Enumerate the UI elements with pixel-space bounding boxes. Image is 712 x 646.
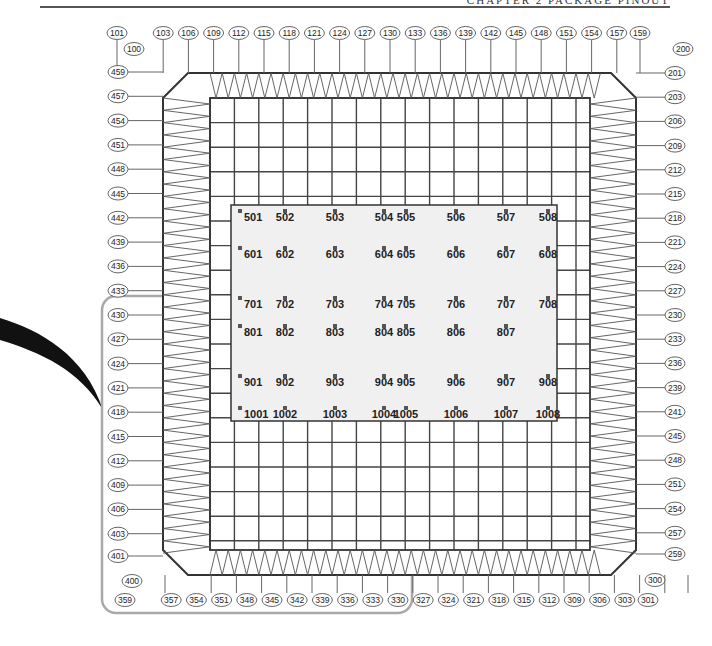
pad-1007: 1007 bbox=[494, 408, 518, 420]
top-pin-151: 151 bbox=[559, 28, 573, 38]
top-pin-121: 121 bbox=[307, 28, 321, 38]
top-pin-124: 124 bbox=[333, 28, 347, 38]
bottom-pin-357: 357 bbox=[164, 595, 178, 605]
right-pin-224: 224 bbox=[668, 262, 682, 272]
left-pin-406: 406 bbox=[111, 504, 125, 514]
pad-707: 707 bbox=[497, 298, 515, 310]
pinout-diagram: 1011031061091121151181211241271301331361… bbox=[0, 0, 712, 646]
left-pin-451: 451 bbox=[111, 140, 125, 150]
pad-905: 905 bbox=[397, 376, 415, 388]
left-pin-433: 433 bbox=[111, 286, 125, 296]
bottom-pin-342: 342 bbox=[290, 595, 304, 605]
top-pin-103: 103 bbox=[156, 28, 170, 38]
pad-801-marker bbox=[238, 324, 242, 328]
pad-504: 504 bbox=[375, 211, 394, 223]
bottom-pin-324: 324 bbox=[441, 595, 455, 605]
bottom-pin-339: 339 bbox=[315, 595, 329, 605]
pad-803: 803 bbox=[326, 326, 344, 338]
left-pin-412: 412 bbox=[111, 456, 125, 466]
pad-701-marker bbox=[238, 296, 242, 300]
pad-602: 602 bbox=[276, 248, 294, 260]
top-pin-154: 154 bbox=[585, 28, 599, 38]
top-pin-145: 145 bbox=[509, 28, 523, 38]
pad-802: 802 bbox=[276, 326, 294, 338]
pad-1002: 1002 bbox=[273, 408, 297, 420]
pad-1005: 1005 bbox=[394, 408, 418, 420]
right-pin-236: 236 bbox=[668, 358, 682, 368]
right-pin-259: 259 bbox=[668, 549, 682, 559]
pad-902: 902 bbox=[276, 376, 294, 388]
bottom-pin-327: 327 bbox=[416, 595, 430, 605]
right-pin-230: 230 bbox=[668, 310, 682, 320]
right-pin-257: 257 bbox=[668, 528, 682, 538]
right-pin-221: 221 bbox=[668, 237, 682, 247]
top-pin-127: 127 bbox=[358, 28, 372, 38]
right-pin-209: 209 bbox=[668, 141, 682, 151]
pad-1008: 1008 bbox=[536, 408, 560, 420]
top-pin-159: 159 bbox=[633, 28, 647, 38]
pad-501-marker bbox=[238, 209, 242, 213]
left-pin-403: 403 bbox=[111, 529, 125, 539]
pad-703: 703 bbox=[326, 298, 344, 310]
top-pin-118: 118 bbox=[282, 28, 296, 38]
bottom-pin-336: 336 bbox=[341, 595, 355, 605]
bottom-pin-348: 348 bbox=[240, 595, 254, 605]
pad-901: 901 bbox=[244, 376, 262, 388]
top-pin-101: 101 bbox=[110, 28, 124, 38]
pad-901-marker bbox=[238, 374, 242, 378]
pad-801: 801 bbox=[244, 326, 262, 338]
pad-606: 606 bbox=[447, 248, 465, 260]
bottom-pin-321: 321 bbox=[467, 595, 481, 605]
pad-601: 601 bbox=[244, 248, 262, 260]
right-pin-227: 227 bbox=[668, 286, 682, 296]
corner-400: 400 bbox=[125, 576, 139, 586]
bottom-pin-354: 354 bbox=[189, 595, 203, 605]
pad-1006: 1006 bbox=[444, 408, 468, 420]
pad-805: 805 bbox=[397, 326, 415, 338]
right-pin-201: 201 bbox=[668, 68, 682, 78]
left-pin-445: 445 bbox=[111, 189, 125, 199]
pad-705: 705 bbox=[397, 298, 415, 310]
left-pin-439: 439 bbox=[111, 237, 125, 247]
right-pin-212: 212 bbox=[668, 165, 682, 175]
top-pin-148: 148 bbox=[534, 28, 548, 38]
pad-804: 804 bbox=[375, 326, 394, 338]
bottom-pin-309: 309 bbox=[567, 595, 581, 605]
marker-pen-shape bbox=[0, 318, 103, 410]
corner-200: 200 bbox=[676, 44, 690, 54]
top-pin-112: 112 bbox=[232, 28, 246, 38]
left-pin-459: 459 bbox=[111, 67, 125, 77]
right-pin-241: 241 bbox=[668, 407, 682, 417]
left-pin-401: 401 bbox=[111, 551, 125, 561]
bottom-pin-301: 301 bbox=[641, 595, 655, 605]
pad-806: 806 bbox=[447, 326, 465, 338]
left-pin-427: 427 bbox=[111, 334, 125, 344]
bottom-pin-345: 345 bbox=[265, 595, 279, 605]
center-pad-area bbox=[231, 205, 557, 421]
left-pin-442: 442 bbox=[111, 213, 125, 223]
pad-708: 708 bbox=[539, 298, 557, 310]
top-pin-130: 130 bbox=[383, 28, 397, 38]
pad-702: 702 bbox=[276, 298, 294, 310]
bottom-pin-359: 359 bbox=[118, 595, 132, 605]
pad-603: 603 bbox=[326, 248, 344, 260]
pad-908: 908 bbox=[539, 376, 557, 388]
pad-701: 701 bbox=[244, 298, 262, 310]
pad-501: 501 bbox=[244, 211, 262, 223]
bottom-pin-303: 303 bbox=[618, 595, 632, 605]
pad-903: 903 bbox=[326, 376, 344, 388]
top-pin-157: 157 bbox=[610, 28, 624, 38]
pad-503: 503 bbox=[326, 211, 344, 223]
left-pin-415: 415 bbox=[111, 432, 125, 442]
bottom-pin-312: 312 bbox=[542, 595, 556, 605]
left-pin-418: 418 bbox=[111, 407, 125, 417]
pad-601-marker bbox=[238, 246, 242, 250]
left-pin-457: 457 bbox=[111, 91, 125, 101]
left-pin-421: 421 bbox=[111, 383, 125, 393]
top-pin-133: 133 bbox=[408, 28, 422, 38]
bottom-pin-351: 351 bbox=[215, 595, 229, 605]
pad-1003: 1003 bbox=[323, 408, 347, 420]
pad-608: 608 bbox=[539, 248, 557, 260]
left-pin-430: 430 bbox=[111, 310, 125, 320]
pad-807: 807 bbox=[497, 326, 515, 338]
